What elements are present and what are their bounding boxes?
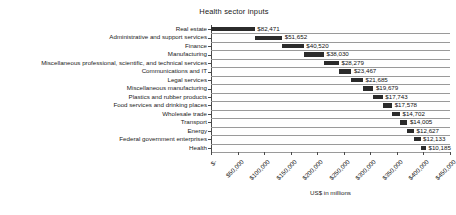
- bar-value-label: $40,520: [306, 42, 328, 50]
- bar: [373, 95, 382, 99]
- chart-title: Health sector inputs: [0, 7, 456, 16]
- bar: [282, 44, 304, 48]
- gridline: [211, 76, 450, 77]
- bar: [414, 137, 420, 141]
- bar-value-label: $19,679: [376, 84, 398, 92]
- category-label: Wholesale trade: [162, 110, 207, 118]
- bar-value-label: $28,279: [341, 59, 363, 67]
- bar: [255, 36, 282, 40]
- gridline: [211, 144, 450, 145]
- gridline: [211, 67, 450, 68]
- gridline: [211, 42, 450, 43]
- x-axis-tick: [397, 152, 398, 155]
- bar: [421, 146, 426, 150]
- y-axis-tick: [208, 131, 211, 132]
- gridline: [211, 127, 450, 128]
- plot-area: $82,471$51,652$40,520$38,030$28,279$23,4…: [211, 25, 450, 152]
- bar: [400, 120, 407, 124]
- x-axis-tick: [238, 152, 239, 155]
- category-axis-labels: Real estateAdministrative and support se…: [0, 25, 207, 152]
- bar: [363, 86, 373, 90]
- y-axis-tick: [208, 105, 211, 106]
- bar-value-label: $51,652: [285, 33, 307, 41]
- category-label: Energy: [187, 127, 207, 135]
- y-axis-tick: [208, 55, 211, 56]
- y-axis-tick: [208, 38, 211, 39]
- chart-title-text: Health sector inputs: [199, 7, 268, 16]
- y-axis-tick: [208, 114, 211, 115]
- category-label: Real estate: [176, 25, 207, 33]
- x-axis-tick: [370, 152, 371, 155]
- bar: [339, 69, 351, 73]
- gridline: [211, 135, 450, 136]
- category-label: Finance: [185, 42, 207, 50]
- category-label: Health: [189, 144, 207, 152]
- y-axis-tick: [208, 148, 211, 149]
- category-label: Administrative and support services: [109, 33, 207, 41]
- category-label: Miscellaneous professional, scientific, …: [41, 59, 207, 67]
- category-label: Manufacturing: [168, 50, 207, 58]
- bar-value-label: $17,743: [385, 93, 407, 101]
- bar: [383, 103, 392, 107]
- gridline: [211, 152, 450, 153]
- gridline: [211, 84, 450, 85]
- y-axis-tick: [208, 97, 211, 98]
- x-axis-tick: [211, 152, 212, 155]
- category-label: Plastics and rubber products: [129, 93, 207, 101]
- y-axis-tick: [208, 122, 211, 123]
- x-axis-title: US$ in millions: [211, 189, 450, 196]
- bar-value-label: $12,133: [423, 135, 445, 143]
- category-label: Food services and drinking places: [113, 101, 207, 109]
- y-axis-tick: [208, 72, 211, 73]
- bar-value-label: $14,702: [402, 110, 424, 118]
- y-axis-tick: [208, 139, 211, 140]
- bar-value-label: $38,030: [326, 50, 348, 58]
- bar-value-label: $12,627: [417, 127, 439, 135]
- gridline: [211, 33, 450, 34]
- bar: [392, 112, 400, 116]
- gridline: [211, 59, 450, 60]
- bar-value-label: $17,578: [395, 101, 417, 109]
- chart-root: Health sector inputs Real estateAdminist…: [0, 0, 456, 215]
- bar: [304, 52, 324, 56]
- bar-value-label: $23,467: [354, 67, 376, 75]
- x-axis-tick: [264, 152, 265, 155]
- y-axis-line: [211, 25, 212, 152]
- category-label: Miscellaneous manufacturing: [127, 84, 207, 92]
- x-axis-tick: [291, 152, 292, 155]
- bar-value-label: $14,005: [410, 118, 432, 126]
- bar: [407, 129, 414, 133]
- y-axis-tick: [208, 46, 211, 47]
- x-axis-tick: [317, 152, 318, 155]
- y-axis-tick: [208, 80, 211, 81]
- bar-value-label: $21,685: [365, 76, 387, 84]
- x-axis-tick: [344, 152, 345, 155]
- bar: [351, 78, 363, 82]
- x-axis-tick: [450, 152, 451, 155]
- y-axis-tick: [208, 63, 211, 64]
- category-label: Federal government enterprises: [119, 135, 207, 143]
- y-axis-tick: [208, 89, 211, 90]
- bar-value-label: $10,185: [428, 144, 450, 152]
- bar-value-label: $82,471: [257, 25, 279, 33]
- bar: [211, 27, 255, 31]
- x-axis-tick: [423, 152, 424, 155]
- bar: [324, 61, 339, 65]
- category-label: Transport: [181, 118, 207, 126]
- category-label: Legal services: [167, 76, 207, 84]
- gridline: [211, 93, 450, 94]
- category-label: Communications and IT: [142, 67, 207, 75]
